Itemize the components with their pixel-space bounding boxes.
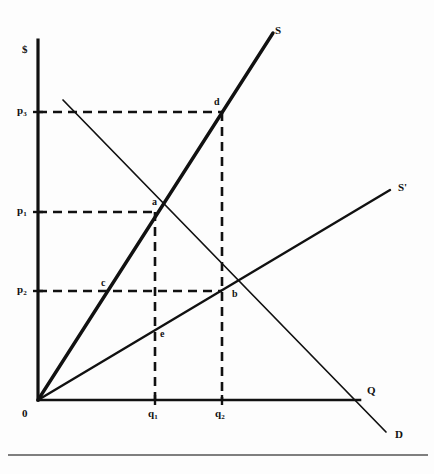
supply-demand-figure: $ Q 0 p3 p1 p2 q1 q2 S S' D a b c d e [0, 0, 434, 474]
quantity-label-q2: q2 [215, 408, 225, 419]
demand-curve-d [63, 100, 386, 432]
price-label-p3-sub: 3 [23, 110, 27, 118]
point-label-d: d [214, 96, 220, 107]
price-label-p2: p2 [17, 284, 27, 295]
diagram-canvas [0, 0, 434, 474]
point-label-c: c [101, 277, 105, 288]
quantity-label-q1: q1 [148, 408, 158, 419]
price-label-p1-sub: 1 [23, 210, 27, 218]
point-label-b: b [232, 288, 238, 299]
y-axis-label: $ [22, 44, 28, 55]
origin-label: 0 [22, 408, 28, 419]
price-label-p1: p1 [17, 205, 27, 216]
quantity-label-q1-sub: 1 [154, 413, 158, 421]
quantity-label-q2-sub: 2 [221, 413, 225, 421]
price-label-p2-sub: 2 [23, 289, 27, 297]
point-label-e: e [160, 328, 164, 339]
curve-label-s: S [275, 24, 281, 36]
curve-label-d: D [395, 428, 403, 440]
point-label-a: a [152, 196, 157, 207]
x-axis-label: Q [367, 385, 376, 396]
supply-curve-s-prime [38, 190, 390, 400]
curve-label-s-prime: S' [398, 181, 407, 193]
price-label-p3: p3 [17, 105, 27, 116]
